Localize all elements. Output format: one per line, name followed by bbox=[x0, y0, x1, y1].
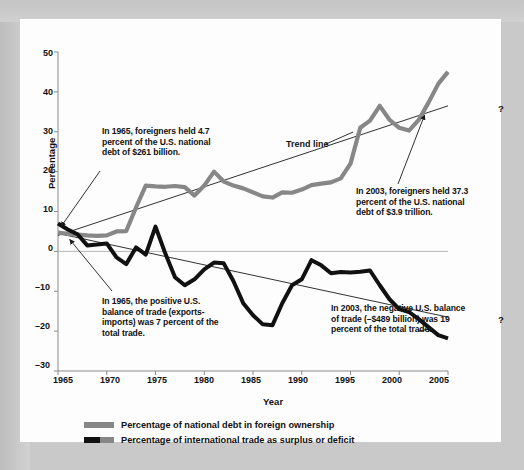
trend-line-label: Trend line bbox=[286, 139, 329, 149]
leader-trade-1965 bbox=[70, 239, 112, 291]
legend-swatch-debt bbox=[84, 422, 114, 428]
xtick-label: 1965 bbox=[43, 375, 83, 385]
ytick-label: 30 bbox=[27, 126, 53, 136]
ytick-label: 10 bbox=[27, 204, 53, 214]
question-mark-trade-trend: ? bbox=[498, 314, 504, 325]
legend-item: Percentage of national debt in foreign o… bbox=[84, 417, 354, 432]
ytick-label: 50 bbox=[27, 48, 53, 58]
ytick-label: –20 bbox=[24, 321, 50, 331]
legend-label-trade: Percentage of international trade as sur… bbox=[121, 435, 354, 445]
annotation-debt-2003: In 2003, foreigners held 37.3 percent of… bbox=[356, 186, 476, 218]
annotation-trade-1965: In 1965, the positive U.S. balance of tr… bbox=[102, 296, 222, 338]
annotation-debt-1965: In 1965, foreigners held 4.7 percent of … bbox=[102, 126, 222, 158]
xtick-label: 1980 bbox=[184, 375, 224, 385]
xtick-label: 1995 bbox=[325, 375, 365, 385]
xtick-label: 1970 bbox=[90, 375, 130, 385]
x-axis-title: Year bbox=[263, 396, 283, 407]
xtick-label: 1975 bbox=[137, 375, 177, 385]
legend-item: Percentage of international trade as sur… bbox=[84, 432, 354, 447]
ytick-label: –10 bbox=[24, 282, 50, 292]
question-mark-debt-trend: ? bbox=[498, 103, 504, 114]
xtick-label: 2005 bbox=[419, 375, 459, 385]
figure-container: 50 40 30 20 10 0 –10 –20 –30 1965 1970 1… bbox=[0, 0, 524, 470]
legend-swatch-trade bbox=[84, 437, 114, 443]
ytick-label: 40 bbox=[27, 87, 53, 97]
leader-debt-1965 bbox=[61, 171, 100, 227]
annotation-trade-2003: In 2003, the negative U.S. balance of tr… bbox=[331, 303, 466, 335]
xtick-label: 2000 bbox=[372, 375, 412, 385]
xtick-label: 1990 bbox=[278, 375, 318, 385]
chart-panel: 50 40 30 20 10 0 –10 –20 –30 1965 1970 1… bbox=[20, 19, 501, 442]
xtick-label: 1985 bbox=[231, 375, 271, 385]
ytick-label: 0 bbox=[27, 243, 53, 253]
ytick-label: –30 bbox=[24, 360, 50, 370]
chart-legend: Percentage of national debt in foreign o… bbox=[84, 417, 354, 447]
legend-label-debt: Percentage of national debt in foreign o… bbox=[121, 420, 334, 430]
y-axis-title: Percentage bbox=[46, 138, 57, 189]
